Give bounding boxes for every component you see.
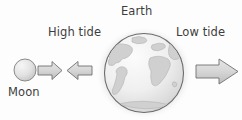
arrow-high-tide [67,62,92,80]
tide-diagram: Earth High tide Low tide Moon [0,0,242,120]
arrow-moon-pull [38,62,62,80]
label-earth: Earth [121,5,152,18]
label-high-tide: High tide [48,26,101,39]
label-moon: Moon [8,86,40,99]
label-low-tide: Low tide [176,26,225,39]
moon-body [14,59,36,81]
diagram-canvas [0,0,242,120]
arrow-low-tide [196,59,238,84]
earth-body [105,34,184,113]
